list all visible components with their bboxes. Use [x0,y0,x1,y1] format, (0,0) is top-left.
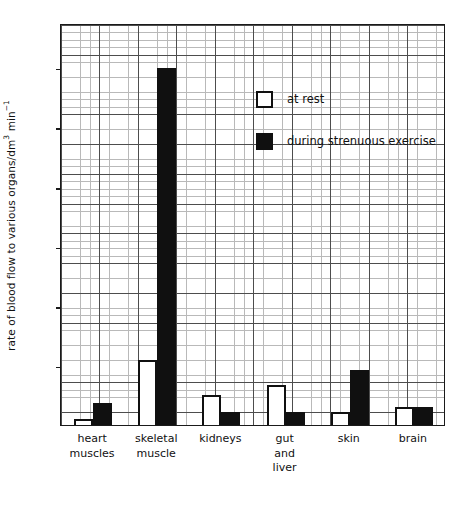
y-tick-mark [56,248,61,250]
bar-during-exercise [286,412,305,425]
bar-at-rest [202,395,221,425]
y-axis-title-prefix: rate of blood flow to various organs/dm [5,139,17,350]
y-axis-title-sup-inverse: −1 [1,100,10,111]
legend-entry: during strenuous exercise [256,126,436,156]
bar-at-rest [74,419,93,425]
legend-swatch-open-square-icon [256,91,273,108]
y-axis-title-sup-cubed: 3 [1,134,10,139]
bar-during-exercise [93,403,112,425]
y-tick-mark [56,307,61,309]
bar-at-rest [267,385,286,425]
blood-flow-bar-chart: rate of blood flow to various organs/dm3… [0,0,466,521]
bar-during-exercise [350,370,369,425]
bar-during-exercise [157,68,176,425]
y-axis-title-text: rate of blood flow to various organs/dm3… [6,100,17,351]
bar-during-exercise [221,412,240,425]
chart-legend: at restduring strenuous exercise [256,84,436,168]
legend-swatch-filled-square-icon [256,133,273,150]
y-tick-mark [56,367,61,369]
y-tick-mark [56,128,61,130]
bar-at-rest [138,360,157,426]
y-axis-title: rate of blood flow to various organs/dm3… [0,24,22,426]
bar-at-rest [331,412,350,425]
y-axis-title-mid: min [5,111,17,135]
y-tick-mark [56,188,61,190]
legend-entry: at rest [256,84,436,114]
legend-label: at rest [287,92,324,106]
bar-during-exercise [414,407,433,425]
legend-label: during strenuous exercise [287,134,436,148]
y-tick-mark [56,69,61,71]
x-tick-label: brain [368,432,458,447]
bar-at-rest [395,407,414,425]
